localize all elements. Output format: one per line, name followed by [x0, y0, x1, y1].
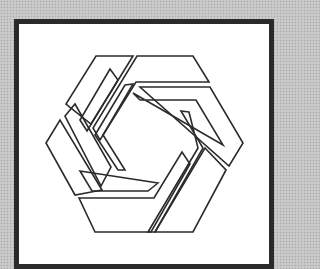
blade-2-sliver [133, 93, 223, 145]
blade-5-sliver [65, 104, 111, 186]
blade-1 [66, 56, 133, 124]
pinwheel-blades [46, 56, 243, 232]
blade-5 [46, 120, 102, 195]
blade-4 [79, 152, 190, 232]
hexagon-pinwheel-icon [0, 0, 288, 264]
